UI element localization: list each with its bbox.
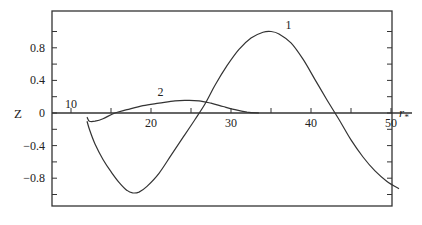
x-tick-label: 10 [65, 97, 77, 111]
y-tick-label: 0.8 [30, 41, 45, 55]
x-tick-label: 20 [145, 116, 157, 130]
line-chart: 0.80.40−0.4−0.8 1020304050 12 Z r* [0, 0, 422, 225]
curves [87, 31, 399, 193]
y-axis-tick-labels: 0.80.40−0.4−0.8 [23, 41, 45, 185]
y-tick-label: −0.8 [23, 171, 45, 185]
y-tick-label: 0 [39, 106, 45, 120]
x-axis-title-sub: * [404, 112, 409, 122]
curve-1 [87, 31, 399, 193]
y-axis-ticks [52, 32, 57, 195]
curve-label: 1 [286, 18, 292, 32]
x-axis-title: r* [399, 105, 409, 122]
plot-frame [52, 11, 392, 206]
x-tick-label: 40 [305, 116, 317, 130]
y-axis-title: Z [14, 106, 22, 121]
x-tick-label: 30 [225, 116, 237, 130]
y-tick-label: 0.4 [30, 73, 45, 87]
x-tick-label: 50 [385, 116, 397, 130]
curve-label: 2 [158, 85, 164, 99]
y-tick-label: −0.4 [23, 139, 45, 153]
curve-labels: 12 [158, 18, 292, 99]
